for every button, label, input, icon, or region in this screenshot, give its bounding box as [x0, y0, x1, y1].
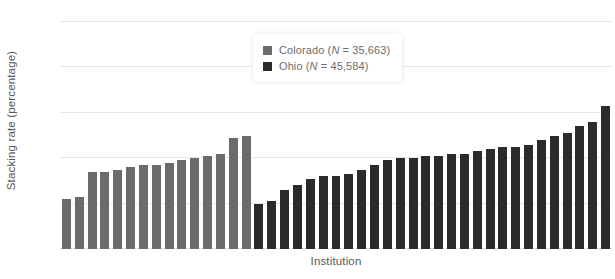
bar-ohio-19	[293, 185, 302, 249]
bar-ohio-39	[550, 136, 559, 250]
legend-item-colorado[interactable]: Colorado (N = 35,663)	[263, 42, 390, 58]
bar-colorado-8	[152, 165, 161, 249]
bar-ohio-29	[421, 156, 430, 249]
bar-ohio-42	[588, 122, 597, 249]
bar-ohio-35	[498, 147, 507, 249]
bar-ohio-36	[511, 147, 520, 249]
bar-colorado-13	[216, 154, 225, 249]
bar-colorado-15	[242, 136, 251, 250]
bar-ohio-30	[434, 156, 443, 249]
ohio-swatch	[263, 62, 272, 71]
bar-ohio-25	[370, 165, 379, 249]
bar-colorado-9	[165, 163, 174, 249]
bar-colorado-2	[75, 197, 84, 249]
bar-ohio-26	[383, 160, 392, 249]
legend-series-name: Colorado	[279, 44, 328, 56]
bar-colorado-11	[190, 158, 199, 249]
bar-ohio-17	[267, 201, 276, 249]
bar-colorado-7	[139, 165, 148, 249]
bar-ohio-32	[460, 154, 469, 249]
bar-ohio-24	[357, 170, 366, 249]
legend-item-ohio[interactable]: Ohio (N = 45,584)	[263, 58, 390, 74]
bar-ohio-28	[409, 158, 418, 249]
bar-ohio-40	[563, 133, 572, 249]
bar-colorado-1	[62, 199, 71, 249]
bar-ohio-27	[396, 158, 405, 249]
legend-item-label: Ohio (N = 45,584)	[279, 60, 368, 72]
legend-series-name: Ohio	[279, 60, 306, 72]
bar-ohio-20	[306, 179, 315, 249]
y-axis-title: Stacking rate (percentage)	[0, 0, 22, 260]
bar-ohio-18	[280, 190, 289, 249]
bar-ohio-22	[332, 176, 341, 249]
colorado-swatch	[263, 46, 272, 55]
bar-colorado-6	[126, 167, 135, 249]
bar-chart-figure: Stacking rate (percentage) Institution 0…	[0, 0, 615, 279]
legend: Colorado (N = 35,663)Ohio (N = 45,584)	[253, 34, 402, 82]
bar-colorado-10	[177, 160, 186, 249]
bar-colorado-12	[203, 156, 212, 249]
bar-ohio-34	[486, 149, 495, 249]
bar-ohio-38	[537, 140, 546, 249]
bar-ohio-31	[447, 154, 456, 249]
bar-colorado-14	[229, 138, 238, 249]
bar-colorado-5	[113, 170, 122, 249]
bar-ohio-43	[601, 106, 610, 249]
bar-colorado-4	[100, 172, 109, 249]
bar-ohio-21	[319, 176, 328, 249]
legend-series-count: (N = 35,663)	[328, 44, 391, 56]
legend-item-label: Colorado (N = 35,663)	[279, 44, 390, 56]
x-axis-title: Institution	[60, 255, 612, 267]
bar-ohio-23	[344, 174, 353, 249]
bar-ohio-41	[575, 126, 584, 249]
bar-ohio-37	[524, 145, 533, 249]
legend-series-count: (N = 45,584)	[306, 60, 369, 72]
bar-colorado-3	[88, 172, 97, 249]
bar-ohio-33	[473, 151, 482, 249]
bar-ohio-16	[254, 204, 263, 249]
